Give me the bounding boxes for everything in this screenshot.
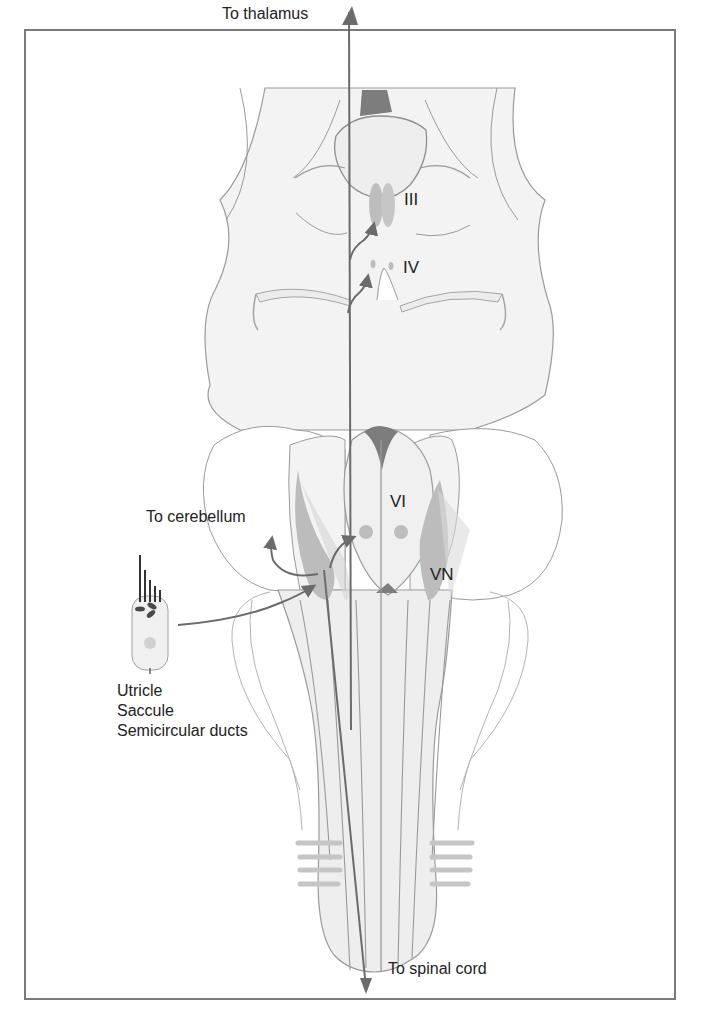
label-saccule: Saccule: [117, 703, 174, 719]
label-to-thalamus: To thalamus: [222, 6, 308, 22]
label-nucleus-III: III: [404, 191, 418, 208]
nucleus-VI-left: [359, 525, 373, 539]
label-to-cerebellum: To cerebellum: [146, 509, 246, 525]
nucleus-IV: [371, 260, 376, 268]
nucleus-VI-right: [394, 525, 408, 539]
label-utricle: Utricle: [117, 683, 162, 699]
label-vestibular-nuclei: VN: [430, 566, 454, 583]
label-semicircular-ducts: Semicircular ducts: [117, 723, 248, 739]
pineal-region: [360, 90, 392, 116]
label-nucleus-IV: IV: [403, 259, 419, 276]
label-to-spinal-cord: To spinal cord: [388, 961, 487, 977]
arrow-to-spinal-cord: [360, 978, 372, 994]
arrow-to-thalamus: [342, 6, 358, 25]
hair-cell-icon: [132, 555, 168, 674]
brainstem-diagram: [0, 0, 704, 1016]
nucleus-III: [369, 183, 383, 227]
label-nucleus-VI: VI: [390, 493, 406, 510]
